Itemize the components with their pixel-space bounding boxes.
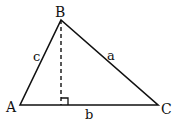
diagram-canvas: B A C c a b (0, 0, 180, 121)
triangle-abc (20, 20, 158, 105)
side-label-b: b (85, 107, 93, 121)
vertex-label-a: A (5, 99, 17, 115)
right-angle-marker (61, 98, 68, 105)
side-label-a: a (107, 48, 115, 63)
vertex-label-b: B (55, 4, 65, 20)
side-label-c: c (33, 49, 40, 64)
triangle-diagram: B A C c a b (0, 0, 180, 121)
vertex-label-c: C (161, 101, 172, 117)
